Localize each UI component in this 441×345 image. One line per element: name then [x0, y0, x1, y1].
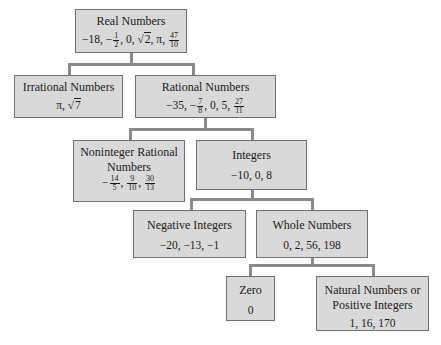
node-title: Negative Integers: [134, 218, 245, 233]
node-values: 0: [227, 303, 274, 318]
value-text: , 0,: [120, 33, 137, 45]
connector-integers-bar: [190, 198, 314, 201]
node-values: −10, 0, 8: [197, 168, 306, 183]
node-whole-numbers: Whole Numbers 0, 2, 56, 198: [256, 210, 368, 258]
node-irrational-numbers: Irrational Numbers π, √7: [14, 75, 123, 118]
connector-zero-drop: [249, 264, 252, 276]
radicand: 7: [74, 98, 81, 111]
connector-integers-drop: [251, 128, 254, 140]
node-title: Integers: [197, 148, 306, 163]
value-text: ,: [121, 176, 127, 188]
fraction: 12: [113, 32, 119, 49]
fraction: 4710: [169, 32, 179, 49]
node-real-numbers: Real Numbers −18, −12, 0, √2, π, 4710: [75, 9, 187, 53]
node-rational-numbers: Rational Numbers −35, −78, 0, 5, 2711: [135, 75, 276, 118]
node-natural-numbers: Natural Numbers or Positive Integers 1, …: [316, 276, 429, 331]
value-text: −18, −: [82, 33, 112, 45]
node-values: π, √7: [15, 98, 122, 113]
node-values: −18, −12, 0, √2, π, 4710: [76, 32, 186, 49]
radicand: 2: [144, 32, 151, 45]
value-text: −35, −: [166, 99, 196, 111]
denominator: 10: [127, 184, 137, 192]
node-values: 0, 2, 56, 198: [257, 238, 367, 253]
denominator: 5: [110, 184, 120, 192]
sqrt-symbol: √: [138, 33, 144, 45]
denominator: 10: [169, 41, 179, 49]
node-title: Whole Numbers: [257, 218, 367, 233]
denominator: 11: [234, 107, 244, 115]
value-text: ,: [138, 176, 144, 188]
node-values: −20, −13, −1: [134, 238, 245, 253]
connector-noninteger-drop: [129, 128, 132, 140]
node-integers: Integers −10, 0, 8: [196, 140, 307, 190]
fraction: 2711: [234, 98, 244, 115]
fraction: 145: [110, 175, 120, 192]
node-negative-integers: Negative Integers −20, −13, −1: [133, 210, 246, 258]
node-title: Rational Numbers: [136, 80, 275, 95]
value-text: , π,: [151, 33, 168, 45]
fraction: 78: [197, 98, 203, 115]
denominator: 2: [113, 41, 119, 49]
connector-negative-drop: [190, 198, 193, 210]
connector-irrational-drop: [68, 63, 71, 75]
node-title-line1: Natural Numbers or: [317, 283, 428, 298]
node-noninteger-rational-numbers: Noninteger Rational Numbers −145, 910, 3…: [73, 140, 185, 202]
node-zero: Zero 0: [226, 276, 275, 321]
node-values: −35, −78, 0, 5, 2711: [136, 98, 275, 115]
connector-real-bar: [68, 63, 195, 66]
value-text: , 0, 5,: [204, 99, 233, 111]
node-title-line2: Positive Integers: [317, 298, 428, 313]
denominator: 8: [197, 107, 203, 115]
fraction: 3013: [145, 175, 155, 192]
connector-whole-drop: [311, 198, 314, 210]
value-text: −: [102, 176, 109, 188]
node-title: Zero: [227, 283, 274, 298]
connector-rational-bar: [129, 128, 254, 131]
node-title-line1: Noninteger Rational: [74, 145, 184, 160]
node-title: Irrational Numbers: [15, 80, 122, 95]
connector-whole-bar: [249, 264, 375, 267]
connector-rational-drop: [192, 63, 195, 75]
connector-natural-drop: [372, 264, 375, 276]
node-values: 1, 16, 170: [317, 316, 428, 331]
node-title: Real Numbers: [76, 14, 186, 29]
node-values: −145, 910, 3013: [74, 175, 184, 192]
value-text: π,: [56, 99, 68, 111]
denominator: 13: [145, 184, 155, 192]
node-title-line2: Numbers: [74, 160, 184, 175]
fraction: 910: [127, 175, 137, 192]
